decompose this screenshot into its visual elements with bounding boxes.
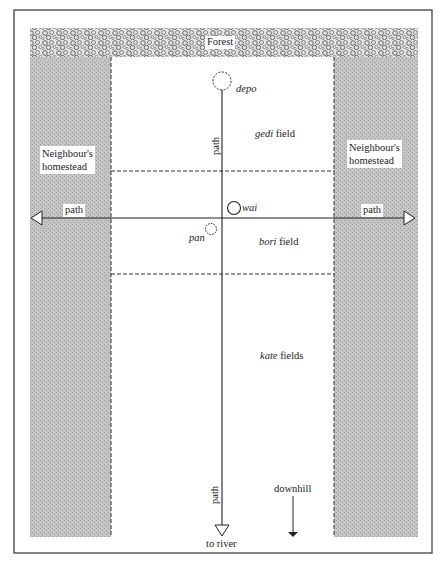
wai-label: wai xyxy=(242,203,257,214)
gedi-field-name: gedi xyxy=(255,128,273,139)
gedi-field-label: gedi field xyxy=(255,129,295,140)
downhill-label: downhill xyxy=(274,484,311,495)
kate-field-name: kate xyxy=(260,350,278,361)
right-homestead-area xyxy=(334,57,418,537)
left-homestead-area xyxy=(30,57,111,537)
kate-field-suffix: fields xyxy=(278,350,304,361)
kate-fields-label: kate fields xyxy=(260,351,303,362)
farm-layout-diagram: Forest Neighbour's homestead Neighbour's… xyxy=(0,0,442,568)
lower-vertical-path-label: path xyxy=(210,486,221,504)
right-homestead-label-line1: Neighbour's xyxy=(349,141,400,154)
pan-label: pan xyxy=(189,233,205,244)
forest-label: Forest xyxy=(205,36,235,49)
left-path-label: path xyxy=(63,204,85,217)
bori-field-label: bori field xyxy=(259,237,298,248)
gedi-field-suffix: field xyxy=(273,128,295,139)
diagram-canvas xyxy=(0,0,442,568)
bori-field-name: bori xyxy=(259,236,277,247)
right-homestead-label: Neighbour's homestead xyxy=(347,140,402,168)
to-river-label: to river xyxy=(206,539,237,550)
right-homestead-label-line2: homestead xyxy=(349,154,400,167)
left-homestead-label-line2: homestead xyxy=(42,160,93,173)
bori-field-suffix: field xyxy=(277,236,299,247)
right-path-label: path xyxy=(361,204,383,217)
upper-vertical-path-label: path xyxy=(211,137,222,155)
left-homestead-label: Neighbour's homestead xyxy=(40,146,95,174)
left-homestead-label-line1: Neighbour's xyxy=(42,147,93,160)
depo-label: depo xyxy=(236,84,256,95)
